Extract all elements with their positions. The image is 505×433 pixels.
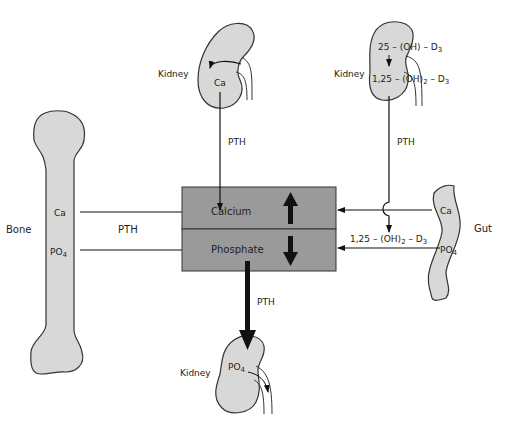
svg-text:1,25 – (OH)2 – D3: 1,25 – (OH)2 – D3: [350, 234, 427, 246]
bone-label: Bone: [6, 224, 31, 235]
gut-po4-label: PO: [440, 245, 453, 255]
kidney-bottom-pth: PTH: [257, 297, 275, 307]
bone-ca-label: Ca: [54, 208, 66, 218]
calcium-pool: [182, 187, 336, 229]
bone: Bone Ca PO4: [6, 111, 84, 374]
phosphate-label: Phosphate: [211, 244, 264, 255]
vitd-to-gut-arrow: [383, 96, 389, 232]
kidney-top-right-pth: PTH: [397, 137, 415, 147]
kidney-shape: [370, 22, 414, 101]
kidney-shape: [216, 336, 265, 413]
vitd-125oh2-label: 1,25 – (OH): [372, 74, 423, 84]
kidney-shape: [198, 23, 254, 108]
gut: Ca PO4 Gut: [428, 185, 492, 300]
kidney-bottom: PO4 Kidney: [180, 336, 272, 414]
bone-pth-label: PTH: [118, 224, 138, 235]
kidney-bottom-label: Kidney: [180, 368, 211, 378]
kidney-top-left-label: Kidney: [158, 69, 189, 79]
calcium-label: Calcium: [211, 206, 251, 217]
kidney-top-right-label: Kidney: [334, 69, 365, 79]
kidney-top-left: Ca Kidney: [158, 23, 254, 108]
gut-ca-label: Ca: [440, 206, 452, 216]
gut-shape: [428, 185, 460, 300]
kidney-bottom-content: PO: [228, 362, 241, 372]
kidney-top-left-content: Ca: [214, 78, 226, 88]
kidney-top-left-pth: PTH: [228, 137, 246, 147]
bone-po4-label: PO: [50, 247, 63, 257]
gut-label: Gut: [474, 223, 492, 234]
phosphate-excretion-arrow-shaft: [245, 261, 250, 333]
gut-vitd-label: 1,25 – (OH): [350, 234, 401, 244]
bone-shape: [31, 111, 85, 374]
calcium-phosphate-regulation-diagram: Bone Ca PO4 PTH Calcium Phosphate Ca Kid…: [0, 0, 505, 433]
kidney-top-right: 25 – (OH) – D3 1,25 – (OH)2 – D3 Kidney: [334, 22, 449, 106]
vitd-25oh-label: 25 – (OH) – D: [378, 42, 438, 52]
pool-box: Calcium Phosphate: [182, 187, 336, 271]
